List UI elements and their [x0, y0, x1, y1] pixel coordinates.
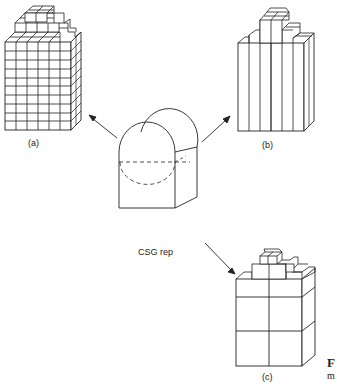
label-a: (a)	[28, 138, 39, 148]
arrow-to-c	[205, 243, 235, 274]
voxel-model-a	[5, 6, 81, 130]
caption-fragment-m: m	[327, 370, 335, 381]
caption-fragment-f: F	[327, 355, 335, 371]
label-b: (b)	[262, 140, 273, 150]
label-c: (c)	[262, 372, 273, 382]
label-csg-rep: CSG rep	[138, 247, 173, 257]
column-model-b	[238, 8, 314, 131]
csg-conversion-diagram	[0, 0, 337, 384]
arrow-to-a	[89, 115, 117, 138]
octree-model-c	[236, 249, 315, 366]
arrow-to-b	[202, 116, 230, 142]
csg-solid	[119, 109, 198, 208]
